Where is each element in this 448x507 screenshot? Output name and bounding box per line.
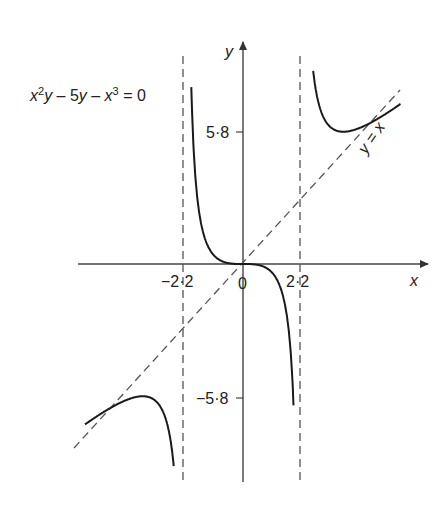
y-tick-label-neg: −5·8 [196, 390, 229, 407]
equation-label: x2y – 5y – x3 = 0 [29, 85, 146, 104]
x-tick-label-pos: 2·2 [286, 273, 309, 290]
y-tick-label-pos: 5·8 [206, 124, 229, 141]
x-axis-label: x [409, 272, 419, 289]
asymptote-label-y-equals-x: y = x [354, 118, 389, 157]
graph-canvas: y x −2·2 0 2·2 5·8 −5·8 x2y – 5y – x3 = … [0, 0, 448, 507]
y-axis-label: y [224, 43, 234, 60]
curve-branch-right [313, 71, 400, 132]
curve-branch-left [85, 396, 174, 466]
x-tick-label-zero: 0 [238, 275, 247, 292]
asymptote-oblique [74, 90, 400, 448]
x-tick-label-neg: −2·2 [161, 273, 194, 290]
